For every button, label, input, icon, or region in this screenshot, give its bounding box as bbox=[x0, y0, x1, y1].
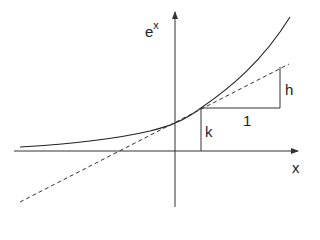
rise-label: h bbox=[285, 82, 293, 97]
run-label: 1 bbox=[243, 113, 251, 128]
y-axis-label: ex bbox=[145, 24, 159, 39]
tangent-line bbox=[20, 64, 289, 202]
k-label: k bbox=[205, 124, 213, 139]
x-axis-label: x bbox=[292, 160, 300, 175]
